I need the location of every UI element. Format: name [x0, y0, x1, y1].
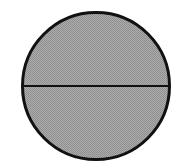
figure-canvas: Circle with horizontal diameter [0, 0, 182, 168]
circle-diameter-figure [0, 0, 182, 168]
